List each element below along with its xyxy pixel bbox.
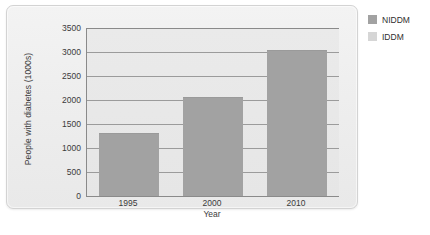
legend-label: IDDM (382, 32, 404, 42)
y-tick-label: 3000 (47, 48, 81, 57)
bar-2010 (267, 50, 327, 196)
y-axis-title: People with diabetes (1000s) (21, 34, 35, 184)
plot-area (86, 28, 339, 197)
y-tick-label: 2500 (47, 72, 81, 81)
y-tick-label: 1000 (47, 144, 81, 153)
legend-item-niddm: NIDDM (368, 12, 426, 27)
legend-swatch-icon (368, 15, 377, 24)
y-tick-label: 1500 (47, 120, 81, 129)
x-tick-label: 2010 (287, 198, 306, 208)
x-tick-label: 1995 (119, 198, 138, 208)
chart-screenshot: People with diabetes (1000s) 0 500 1000 … (0, 0, 430, 235)
x-tick-label: 2000 (203, 198, 222, 208)
chart-panel: People with diabetes (1000s) 0 500 1000 … (6, 5, 358, 209)
bar-1995 (99, 133, 159, 196)
gridline-3500 (87, 28, 339, 29)
y-tick-label: 2000 (47, 96, 81, 105)
legend-swatch-icon (368, 32, 377, 41)
bar-2000 (183, 97, 243, 196)
y-tick-label: 3500 (47, 24, 81, 33)
chart-legend: NIDDM IDDM (368, 12, 426, 46)
y-axis-tick-labels: 0 500 1000 1500 2000 2500 3000 3500 (47, 6, 81, 208)
legend-label: NIDDM (382, 15, 410, 25)
y-tick-label: 500 (47, 168, 81, 177)
y-tick-label: 0 (47, 192, 81, 201)
x-axis-title: Year (86, 209, 338, 219)
legend-item-iddm: IDDM (368, 29, 426, 44)
